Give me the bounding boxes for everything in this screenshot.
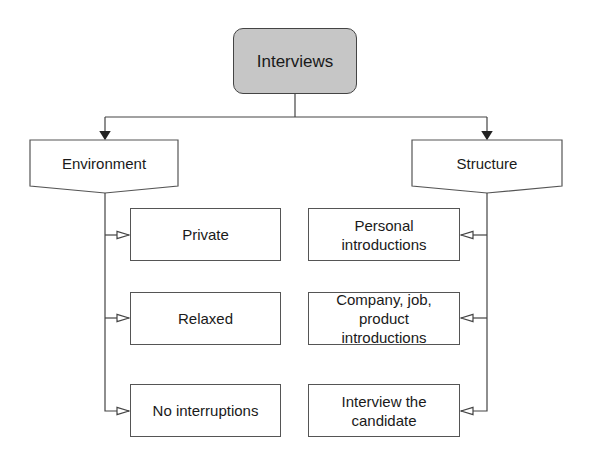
leaf-no-interruptions: No interruptions bbox=[130, 384, 281, 437]
leaf-private: Private bbox=[130, 208, 281, 261]
environment-trunk bbox=[105, 193, 129, 411]
category-structure: Structure bbox=[412, 140, 562, 186]
root-node-interviews: Interviews bbox=[233, 28, 357, 94]
structure-trunk bbox=[461, 193, 487, 411]
leaf-interview-the-candidate: Interview the candidate bbox=[308, 384, 460, 437]
leaf-company-job-product-introductions: Company, job, product introductions bbox=[308, 292, 460, 345]
leaf-personal-introductions: Personal introductions bbox=[308, 208, 460, 261]
category-environment: Environment bbox=[30, 140, 178, 186]
leaf-relaxed: Relaxed bbox=[130, 292, 281, 345]
